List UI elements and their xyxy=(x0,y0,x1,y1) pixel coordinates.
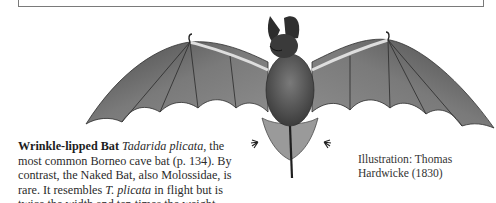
left-foot-icon xyxy=(251,140,258,148)
illustration-credit: Illustration: Thomas Hardwicke (1830) xyxy=(358,153,488,181)
credit-line-2: Hardwicke (1830) xyxy=(358,167,488,181)
left-wing-icon xyxy=(86,34,268,124)
body-icon xyxy=(266,54,314,126)
right-wing-icon xyxy=(312,32,494,128)
caption-title: Wrinkle-lipped Bat xyxy=(18,139,119,153)
caption-text: Wrinkle-lipped Bat Tadarida plicata, the… xyxy=(18,139,240,203)
right-foot-icon xyxy=(324,140,331,148)
credit-line-1: Illustration: Thomas xyxy=(358,153,488,167)
caption-abbrev-name: T. plicata xyxy=(105,183,151,197)
caption-scientific-name: Tadarida plicata xyxy=(122,139,203,153)
head-icon xyxy=(268,16,299,58)
